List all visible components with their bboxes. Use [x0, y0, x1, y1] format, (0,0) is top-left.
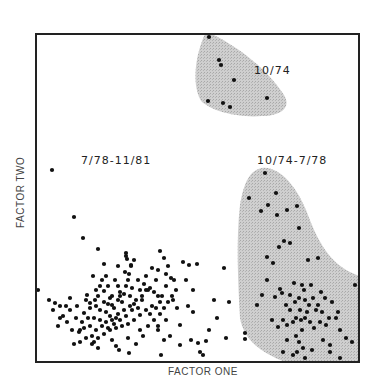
data-point [113, 278, 117, 282]
data-point [219, 63, 223, 67]
data-point [206, 99, 210, 103]
data-point [273, 295, 277, 299]
data-point [175, 306, 179, 310]
x-axis-label: FACTOR ONE [168, 366, 238, 377]
data-point [140, 298, 144, 302]
data-point [302, 288, 306, 292]
data-point [305, 310, 309, 314]
data-point [114, 316, 118, 320]
data-point [90, 334, 94, 338]
data-point [280, 291, 284, 295]
data-point [56, 324, 60, 328]
data-point [72, 342, 76, 346]
data-point [118, 294, 122, 298]
data-point [88, 324, 92, 328]
data-point [128, 294, 132, 298]
data-point [164, 318, 168, 322]
data-point [92, 340, 96, 344]
data-point [259, 209, 263, 213]
data-point [178, 323, 182, 327]
data-point [65, 320, 69, 324]
data-point [104, 310, 108, 314]
data-point [277, 245, 281, 249]
data-point [47, 298, 51, 302]
data-point [186, 304, 190, 308]
data-point [316, 256, 320, 260]
data-point [196, 341, 200, 345]
data-point [334, 316, 338, 320]
data-point [297, 340, 301, 344]
data-point [104, 320, 108, 324]
data-point [285, 208, 289, 212]
data-point [100, 278, 104, 282]
data-point [303, 298, 307, 302]
data-point [94, 328, 98, 332]
data-point [189, 338, 193, 342]
data-point [94, 288, 98, 292]
data-point [110, 294, 114, 298]
data-point [299, 318, 303, 322]
data-point [136, 306, 140, 310]
data-point [227, 300, 231, 304]
data-point [263, 171, 267, 175]
data-point [255, 303, 259, 307]
data-point [162, 338, 166, 342]
data-point [224, 336, 228, 340]
data-point [150, 266, 154, 270]
data-point [232, 78, 236, 82]
data-point [132, 258, 136, 262]
data-point [98, 318, 102, 322]
data-point [300, 283, 304, 287]
data-point [74, 316, 78, 320]
data-point [166, 264, 170, 268]
data-point [184, 278, 188, 282]
data-point [152, 318, 156, 322]
data-point [104, 274, 108, 278]
data-point [201, 353, 205, 357]
data-point [127, 272, 131, 276]
data-point [84, 298, 88, 302]
annotation-7-78-11-81: 7/78-11/81 [81, 154, 151, 167]
data-point [270, 318, 274, 322]
data-point [141, 334, 145, 338]
data-point [328, 343, 332, 347]
data-point [215, 316, 219, 320]
data-point [85, 293, 89, 297]
data-point [271, 261, 275, 265]
data-point [303, 316, 307, 320]
data-point [122, 292, 126, 296]
data-point [298, 308, 302, 312]
data-point [130, 308, 134, 312]
data-point [195, 262, 199, 266]
data-point [310, 348, 314, 352]
data-point [126, 278, 130, 282]
scatter-plot [0, 0, 379, 382]
data-point [53, 301, 57, 305]
data-point [288, 308, 292, 312]
data-point [320, 310, 324, 314]
annotation-10-74: 10/74 [254, 64, 291, 77]
data-point [247, 196, 251, 200]
data-point [309, 283, 313, 287]
data-point [128, 304, 132, 308]
data-point [281, 350, 285, 354]
annotation-10-74-7-78: 10/74-7/78 [257, 154, 327, 167]
data-point [308, 320, 312, 324]
data-point [187, 263, 191, 267]
data-point [198, 350, 202, 354]
data-point [50, 168, 54, 172]
data-point [294, 316, 298, 320]
data-point [110, 318, 114, 322]
data-point [134, 298, 138, 302]
y-axis-label: FACTOR TWO [15, 168, 26, 228]
data-point [324, 323, 328, 327]
data-point [318, 320, 322, 324]
data-point [294, 334, 298, 338]
data-point [84, 336, 88, 340]
data-point [146, 324, 150, 328]
data-point [80, 320, 84, 324]
data-point [221, 101, 225, 105]
data-point [328, 350, 332, 354]
data-point [154, 306, 158, 310]
data-point [138, 288, 142, 292]
